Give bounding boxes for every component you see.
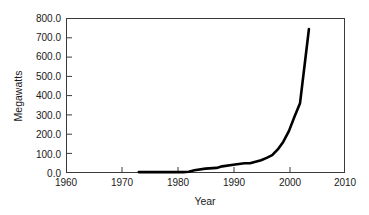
chart-figure: Megawatts Year 800.0 700.0 600.0 500.0 4… [0, 0, 369, 215]
y-tick-label-400: 400.0 [36, 90, 61, 101]
line-chart: Megawatts Year 800.0 700.0 600.0 500.0 4… [0, 0, 369, 215]
x-tick-label-1990: 1990 [223, 177, 246, 188]
plot-frame [67, 19, 345, 173]
x-tick-label-2010: 2010 [334, 177, 357, 188]
x-tick-label-1970: 1970 [111, 177, 134, 188]
y-tick-label-600: 600.0 [36, 51, 61, 62]
y-tick-label-500: 500.0 [36, 71, 61, 82]
x-tick-label-1960: 1960 [55, 177, 78, 188]
y-tick-label-800: 800.0 [36, 13, 61, 24]
x-tick-label-2000: 2000 [279, 177, 302, 188]
y-tick-label-300: 300.0 [36, 110, 61, 121]
y-tick-label-100: 100.0 [36, 149, 61, 160]
y-tick-label-200: 200.0 [36, 129, 61, 140]
y-tick-label-700: 700.0 [36, 32, 61, 43]
y-axis-title: Megawatts [12, 71, 24, 122]
x-axis-title: Year [194, 195, 216, 207]
y-tick-marks [67, 38, 73, 154]
data-line-installed-capacity [139, 29, 309, 172]
x-tick-label-1980: 1980 [167, 177, 190, 188]
